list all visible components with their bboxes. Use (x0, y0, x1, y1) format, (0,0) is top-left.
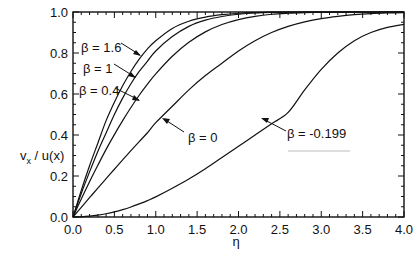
x-tick-label: 0.5 (105, 222, 123, 237)
x-tick-label: 4.0 (395, 222, 413, 237)
x-tick-label: 3.0 (312, 222, 330, 237)
y-axis-label-rest: / u(x) (31, 148, 64, 163)
x-tick-label: 1.5 (188, 222, 206, 237)
annotation-label: β = 1 (83, 61, 113, 76)
axis-ticks (73, 12, 404, 217)
x-axis-label: η (232, 234, 239, 249)
annotation-beta-neg-0-199: β = -0.199 (261, 118, 350, 151)
y-tick-label: 0.4 (50, 128, 68, 143)
arrowhead-icon (162, 118, 170, 124)
x-tick-label: 3.5 (354, 222, 372, 237)
curve-series-2 (73, 12, 404, 217)
annotation-beta-0-4: β = 0.4 (79, 83, 140, 101)
x-tick-label: 2.5 (271, 222, 289, 237)
annotation-label: β = 0.4 (79, 83, 119, 98)
y-axis-label: vx / u(x) (20, 148, 64, 166)
x-tick-label: 1.0 (147, 222, 165, 237)
annotation-label: β = 0 (188, 130, 218, 145)
annotation-label: β = 1.6 (81, 40, 121, 55)
curves (73, 12, 404, 217)
y-tick-label: 0.6 (50, 87, 68, 102)
y-tick-label: 0.0 (50, 210, 68, 225)
y-tick-label: 0.2 (50, 169, 68, 184)
y-tick-label: 1.0 (50, 5, 68, 20)
annotation-label: β = -0.199 (287, 126, 346, 141)
plot-frame (73, 12, 404, 217)
curve-series-1 (73, 12, 404, 217)
arrowhead-icon (261, 118, 269, 123)
annotation-beta-0: β = 0 (162, 118, 218, 145)
curve-series-3 (73, 13, 404, 217)
chart: 0.00.51.01.52.02.53.03.54.00.00.20.40.60… (0, 0, 418, 255)
y-tick-label: 0.8 (50, 46, 68, 61)
annotation-beta-1-6: β = 1.6 (81, 40, 141, 56)
curve-series-0 (73, 12, 404, 217)
